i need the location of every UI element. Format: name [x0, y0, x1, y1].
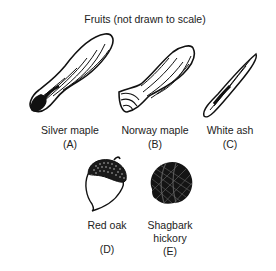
label-shagbark: Shagbark — [148, 219, 193, 231]
letter-d: (D) — [100, 243, 115, 255]
label-hickory: hickory — [153, 232, 186, 244]
silver-maple-samara-icon — [25, 30, 115, 116]
label-norway-maple: Norway maple — [121, 124, 188, 136]
letter-b: (B) — [148, 138, 162, 150]
figure-title: Fruits (not drawn to scale) — [84, 13, 205, 25]
label-white-ash: White ash — [207, 124, 254, 136]
label-red-oak: Red oak — [87, 219, 126, 231]
letter-c: (C) — [223, 138, 238, 150]
norway-maple-samara-icon — [117, 44, 197, 114]
label-silver-maple: Silver maple — [41, 124, 99, 136]
letter-e: (E) — [163, 245, 177, 257]
letter-a: (A) — [63, 138, 77, 150]
hickory-nut-icon — [146, 159, 194, 207]
white-ash-samara-icon — [200, 50, 260, 120]
acorn-icon — [82, 156, 132, 212]
